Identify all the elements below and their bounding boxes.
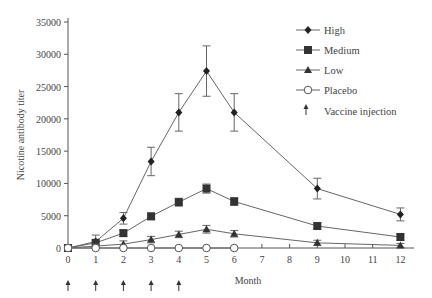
y-axis-label: Nicotine antibody titer bbox=[15, 89, 26, 180]
x-tick-label: 8 bbox=[287, 254, 292, 265]
triangle-marker bbox=[203, 225, 211, 232]
y-tick-label: 5000 bbox=[41, 211, 61, 222]
square-marker bbox=[396, 233, 404, 241]
diamond-marker bbox=[120, 214, 127, 222]
square-marker bbox=[175, 198, 183, 206]
injection-arrow-icon bbox=[93, 280, 98, 285]
x-tick-label: 2 bbox=[121, 254, 126, 265]
injection-arrow-icon bbox=[121, 280, 126, 285]
legend-arrow-icon bbox=[304, 104, 309, 109]
legend-label: Medium bbox=[324, 45, 360, 56]
x-tick-label: 10 bbox=[340, 254, 350, 265]
legend-label: High bbox=[324, 25, 346, 36]
x-axis-label: Month bbox=[235, 275, 262, 286]
injection-arrow-icon bbox=[66, 280, 71, 285]
injection-arrow-icon bbox=[176, 280, 181, 285]
open-circle-marker bbox=[203, 244, 211, 252]
y-tick-label: 10000 bbox=[36, 178, 61, 189]
x-tick-label: 7 bbox=[259, 254, 264, 265]
x-tick-label: 0 bbox=[66, 254, 71, 265]
y-tick-label: 30000 bbox=[36, 49, 61, 60]
square-marker bbox=[119, 229, 127, 237]
legend-label: Placebo bbox=[324, 85, 357, 96]
y-tick-label: 0 bbox=[56, 243, 61, 254]
square-marker bbox=[203, 185, 211, 193]
x-tick-label: 9 bbox=[315, 254, 320, 265]
x-tick-label: 1 bbox=[93, 254, 98, 265]
open-circle-marker bbox=[64, 244, 72, 252]
x-tick-label: 11 bbox=[368, 254, 378, 265]
x-tick-label: 6 bbox=[232, 254, 237, 265]
antibody-titer-chart: 0500010000150002000025000300003500001234… bbox=[0, 0, 432, 298]
diamond-marker bbox=[148, 157, 155, 165]
x-tick-label: 5 bbox=[204, 254, 209, 265]
chart-canvas: 0500010000150002000025000300003500001234… bbox=[0, 0, 432, 298]
legend-open-circle-icon bbox=[304, 86, 312, 94]
legend-label: Low bbox=[324, 65, 344, 76]
y-tick-label: 25000 bbox=[36, 82, 61, 93]
legend-diamond-icon bbox=[305, 26, 312, 34]
legend-square-icon bbox=[304, 46, 312, 54]
legend-label: Vaccine injection bbox=[324, 106, 397, 117]
square-marker bbox=[313, 222, 321, 230]
open-circle-marker bbox=[230, 244, 238, 252]
diamond-marker bbox=[397, 210, 404, 218]
injection-arrow-icon bbox=[149, 280, 154, 285]
x-tick-label: 3 bbox=[149, 254, 154, 265]
y-tick-label: 15000 bbox=[36, 146, 61, 157]
square-marker bbox=[230, 198, 238, 206]
open-circle-marker bbox=[175, 244, 183, 252]
x-tick-label: 4 bbox=[176, 254, 181, 265]
x-tick-label: 12 bbox=[395, 254, 405, 265]
y-tick-label: 20000 bbox=[36, 114, 61, 125]
square-marker bbox=[147, 212, 155, 220]
y-tick-label: 35000 bbox=[36, 17, 61, 28]
open-circle-marker bbox=[147, 244, 155, 252]
open-circle-marker bbox=[92, 244, 100, 252]
open-circle-marker bbox=[120, 244, 128, 252]
